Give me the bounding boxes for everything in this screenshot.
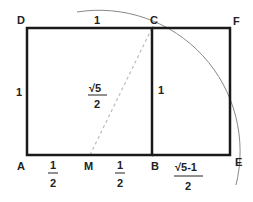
label-diagonal-numerator: √5	[89, 82, 101, 94]
label-top-side: 1	[94, 14, 100, 26]
point-a: A	[17, 160, 25, 172]
point-e: E	[235, 156, 242, 168]
label-be-numerator: √5-1	[175, 161, 197, 173]
arc	[77, 10, 240, 185]
label-mb-denominator: 2	[117, 177, 123, 189]
point-d: D	[17, 14, 25, 26]
point-m: M	[84, 160, 93, 172]
label-am-denominator: 2	[50, 177, 56, 189]
point-c: C	[150, 14, 158, 26]
label-inner-side: 1	[158, 84, 164, 96]
point-b: B	[151, 160, 159, 172]
label-left-side: 1	[16, 86, 22, 98]
golden-rectangle-diagram: D C F A M B E 1 1 1 √5 2 1 2 1 2 √5-1 2	[0, 0, 253, 202]
label-am-numerator: 1	[50, 159, 56, 171]
point-f: F	[233, 15, 240, 27]
label-diagonal-denominator: 2	[94, 98, 100, 110]
label-mb-numerator: 1	[117, 159, 123, 171]
label-be-denominator: 2	[185, 180, 191, 192]
